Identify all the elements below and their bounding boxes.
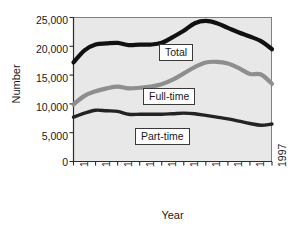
line-chart: Number 25,000 20,000 15,000 10,000 5,000… xyxy=(0,0,288,233)
x-axis-ticks xyxy=(74,162,273,166)
legend-label-total: Total xyxy=(159,44,193,61)
legend-label-fulltime: Full-time xyxy=(143,88,195,105)
legend-label-parttime: Part-time xyxy=(135,128,190,145)
plot-area xyxy=(0,0,288,233)
